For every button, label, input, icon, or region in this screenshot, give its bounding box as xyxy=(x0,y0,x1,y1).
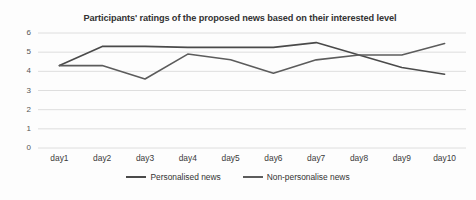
legend-label: Personalised news xyxy=(150,172,220,182)
y-tick-label: 2 xyxy=(15,106,31,114)
x-tick-label-day1: day1 xyxy=(38,154,81,162)
x-tick-label-day7: day7 xyxy=(295,154,338,162)
x-tick-label-day8: day8 xyxy=(338,154,381,162)
x-tick-label-day3: day3 xyxy=(124,154,167,162)
y-tick-label: 3 xyxy=(15,87,31,95)
x-tick-label-day2: day2 xyxy=(81,154,124,162)
legend-item-0[interactable]: Personalised news xyxy=(126,172,220,182)
series-line-1 xyxy=(59,44,444,79)
series-lines xyxy=(59,43,444,79)
legend-item-1[interactable]: Non-personalise news xyxy=(243,172,350,182)
x-tick-label-day10: day10 xyxy=(423,154,466,162)
y-tick-label: 1 xyxy=(15,125,31,133)
plot-area xyxy=(0,0,476,200)
legend-swatch-icon xyxy=(243,176,263,178)
x-tick-label-day6: day6 xyxy=(252,154,295,162)
y-tick-label: 6 xyxy=(15,29,31,37)
y-tick-label: 5 xyxy=(15,48,31,56)
x-tick-label-day5: day5 xyxy=(209,154,252,162)
legend-swatch-icon xyxy=(126,176,146,178)
y-tick-label: 0 xyxy=(15,144,31,152)
x-tick-label-day4: day4 xyxy=(166,154,209,162)
chart-legend: Personalised newsNon-personalise news xyxy=(0,172,476,182)
gridlines xyxy=(38,33,466,148)
x-tick-label-day9: day9 xyxy=(380,154,423,162)
y-tick-label: 4 xyxy=(15,67,31,75)
legend-label: Non-personalise news xyxy=(267,172,350,182)
line-chart: Participants' ratings of the proposed ne… xyxy=(0,0,476,200)
